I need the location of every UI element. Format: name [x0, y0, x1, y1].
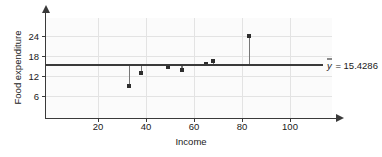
- gridline-horizontal: [46, 96, 332, 97]
- y-tick-label: 24: [28, 31, 39, 42]
- mean-reference-line: [45, 64, 323, 66]
- data-point[interactable]: [247, 34, 251, 38]
- y-tick-mark: [42, 76, 46, 77]
- gridline-vertical: [194, 18, 195, 118]
- gridline-vertical: [290, 18, 291, 118]
- gridline-horizontal: [46, 36, 332, 37]
- x-tick-label: 100: [282, 121, 298, 132]
- mean-reference-value: = 15.4286: [333, 59, 378, 70]
- y-tick-mark: [42, 56, 46, 57]
- y-bar-symbol: y: [327, 59, 333, 70]
- x-tick-label: 40: [141, 121, 152, 132]
- plot-area: [46, 18, 332, 118]
- data-point[interactable]: [180, 68, 184, 72]
- gridline-horizontal: [46, 56, 332, 57]
- x-tick-label: 20: [93, 121, 104, 132]
- data-point[interactable]: [139, 71, 143, 75]
- y-tick-mark: [42, 96, 46, 97]
- gridline-vertical: [98, 18, 99, 118]
- x-axis-title: Income: [0, 136, 382, 147]
- y-tick-label: 12: [28, 71, 39, 82]
- y-tick-label: 18: [28, 51, 39, 62]
- x-axis-line: [45, 118, 338, 119]
- x-tick-label: 60: [189, 121, 200, 132]
- residual-stem: [249, 36, 250, 65]
- gridline-vertical: [242, 18, 243, 118]
- mean-reference-label: y = 15.4286: [327, 59, 378, 70]
- residual-stem: [129, 65, 130, 86]
- y-tick-label: 6: [34, 91, 39, 102]
- y-axis-title: Food expenditure: [12, 20, 23, 116]
- y-tick-mark: [42, 36, 46, 37]
- data-point[interactable]: [127, 84, 131, 88]
- y-axis-arrow-icon: [42, 5, 50, 13]
- x-tick-label: 80: [237, 121, 248, 132]
- gridline-horizontal: [46, 76, 332, 77]
- data-point[interactable]: [211, 59, 215, 63]
- x-axis-arrow-icon: [336, 114, 344, 122]
- chart-figure: 20406080100 6121824 y = 15.4286 Food exp…: [0, 0, 382, 157]
- gridline-vertical: [146, 18, 147, 118]
